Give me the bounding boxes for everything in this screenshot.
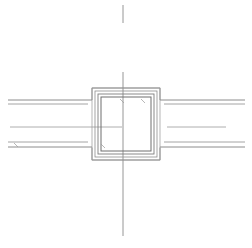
left-duct-rails <box>8 100 92 147</box>
right-duct-rails <box>160 100 245 147</box>
leader-tick-left-rail <box>14 143 18 147</box>
nested-box-rings <box>92 88 160 160</box>
box-ring-4-inner-chamber <box>101 97 151 151</box>
outer-flange-profile-group <box>88 88 160 160</box>
drawing-viewport <box>0 0 252 248</box>
leader-tick-lower-left <box>101 144 105 148</box>
cad-drawing-canvas[interactable] <box>0 0 252 248</box>
leader-tick-group <box>14 99 145 148</box>
box-ring-1 <box>92 88 160 160</box>
box-ring-3 <box>98 94 154 154</box>
leader-tick-upper-right <box>141 99 145 103</box>
